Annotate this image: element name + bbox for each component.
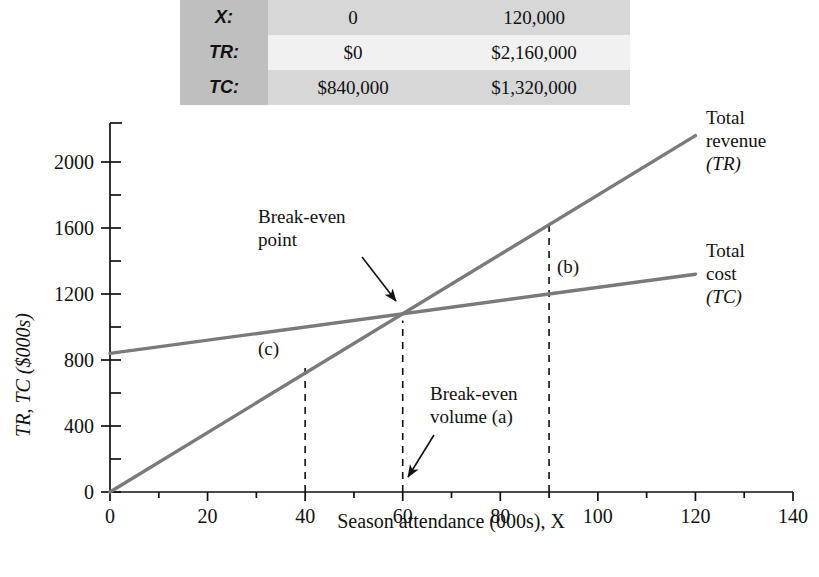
series-label-tc-line3: (TC) [706,286,742,308]
series-label-tr-line1: Total [706,107,745,128]
x-tick-label: 40 [295,505,315,527]
y-tick-labels: 0400800120016002000 [54,151,94,503]
x-tick-label: 0 [105,505,115,527]
y-tick-label: 0 [84,481,94,503]
x-axis-title: Season attendance (000s), X [337,510,565,533]
x-tick-label: 120 [680,505,710,527]
series-label-tr-line3: (TR) [706,153,741,175]
table-row-label: TR: [180,35,268,70]
table-row: TC: $840,000 $1,320,000 [180,70,630,105]
table-row-label: X: [180,0,268,35]
chart-axes [101,123,793,501]
table-row-label: TC: [180,70,268,105]
table-row: TR: $0 $2,160,000 [180,35,630,70]
break-even-chart: 020406080100120140 0400800120016002000 S… [0,105,819,577]
break-even-volume-arrow [408,435,434,477]
marker-c-label: (c) [258,338,279,360]
y-tick-label: 2000 [54,151,94,173]
x-tick-label: 140 [778,505,808,527]
break-even-volume-label-line1: Break-even [430,383,518,404]
table-cell-value: $2,160,000 [438,35,630,70]
table-cell-value: $840,000 [268,70,438,105]
chart-canvas: 020406080100120140 0400800120016002000 S… [0,105,819,577]
series-label-tc-line1: Total [706,240,745,261]
table-cell-value: 0 [268,0,438,35]
x-tick-label: 20 [198,505,218,527]
reference-lines [305,225,549,492]
table-cell-value: $0 [268,35,438,70]
y-axis-title: TR, TC ($000s) [12,313,35,437]
break-even-point-arrow [362,257,396,301]
y-tick-label: 1600 [54,217,94,239]
break-even-point-label-line1: Break-even [258,206,346,227]
table-cell-value: 120,000 [438,0,630,35]
table-row: X: 0 120,000 [180,0,630,35]
y-tick-label: 400 [64,415,94,437]
table-cell-value: $1,320,000 [438,70,630,105]
assumptions-table: X: 0 120,000 TR: $0 $2,160,000 TC: $840,… [180,0,630,105]
break-even-point-label-line2: point [258,229,298,250]
series-label-tc-line2: cost [706,263,737,284]
y-tick-label: 800 [64,349,94,371]
y-tick-label: 1200 [54,283,94,305]
series-label-tr-line2: revenue [706,130,766,151]
break-even-volume-label-line2: volume (a) [430,406,513,428]
series-line [110,274,695,353]
marker-b-label: (b) [557,256,579,278]
x-tick-label: 100 [583,505,613,527]
